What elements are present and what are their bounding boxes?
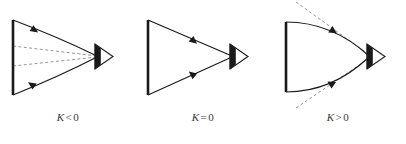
panel-negative-curvature: K<0 (0, 0, 136, 144)
panel-label-value-positive: 0 (343, 111, 349, 123)
apex-arrowhead-positive (367, 44, 385, 69)
panel-label-operator-positive: > (336, 111, 343, 123)
panel-label-zero: K=0 (135, 111, 271, 123)
edge-lower-negative (13, 57, 97, 95)
panel-label-symbol-positive: K (327, 111, 335, 123)
apex-arrowhead-negative (95, 44, 113, 69)
panel-zero-curvature: K=0 (135, 0, 271, 144)
dashed-tangent-group-positive (296, 2, 371, 108)
panel-label-positive: K>0 (270, 111, 406, 123)
dashed-chord-upper (13, 46, 97, 56)
edge-upper-zero (148, 20, 232, 56)
diagram-negative-curvature (0, 0, 136, 110)
panel-label-value-negative: 0 (73, 111, 79, 123)
edge-lower-zero (148, 57, 232, 95)
curvature-figure: K<0 K=0 (0, 0, 406, 144)
edge-upper-positive (286, 22, 369, 56)
edge-upper-negative (13, 20, 97, 56)
panel-label-value-zero: 0 (208, 111, 214, 123)
direction-arrow-upper-positive (328, 26, 337, 33)
dashed-chord-lower (13, 57, 97, 66)
direction-arrow-lower-positive (327, 81, 336, 88)
diagram-zero-curvature (135, 0, 271, 110)
apex-arrowhead-zero (230, 44, 248, 69)
panel-label-symbol-zero: K (192, 111, 200, 123)
panel-label-operator-zero: = (201, 111, 208, 123)
panel-label-negative: K<0 (0, 111, 136, 123)
diagram-positive-curvature (270, 0, 406, 110)
panel-positive-curvature: K>0 (270, 0, 406, 144)
panel-label-symbol-negative: K (57, 111, 65, 123)
panel-label-operator-negative: < (66, 111, 73, 123)
